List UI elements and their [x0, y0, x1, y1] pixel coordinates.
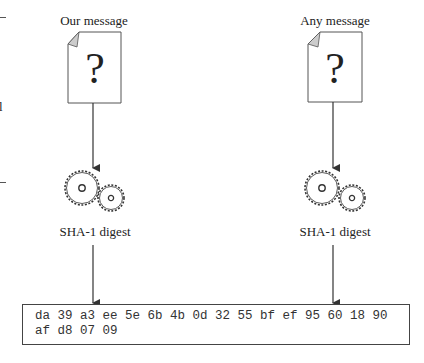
sha1-digest-label-left: SHA-1 digest [45, 224, 145, 240]
document-question-icon-right: ? [308, 32, 362, 102]
sha1-digest-label-right: SHA-1 digest [285, 224, 385, 240]
document-question-icon-left: ? [68, 32, 121, 103]
gears-icon-right [305, 171, 365, 211]
hash-output-box: da 39 a3 ee 5e 6b 4b 0d 32 55 bf ef 95 6… [22, 304, 410, 345]
svg-text:?: ? [325, 44, 345, 93]
hash-line-1: da 39 a3 ee 5e 6b 4b 0d 32 55 bf ef 95 6… [35, 309, 409, 324]
svg-text:?: ? [85, 44, 105, 93]
hash-line-2: af d8 07 09 [35, 324, 409, 339]
gears-icon-left [65, 171, 124, 211]
